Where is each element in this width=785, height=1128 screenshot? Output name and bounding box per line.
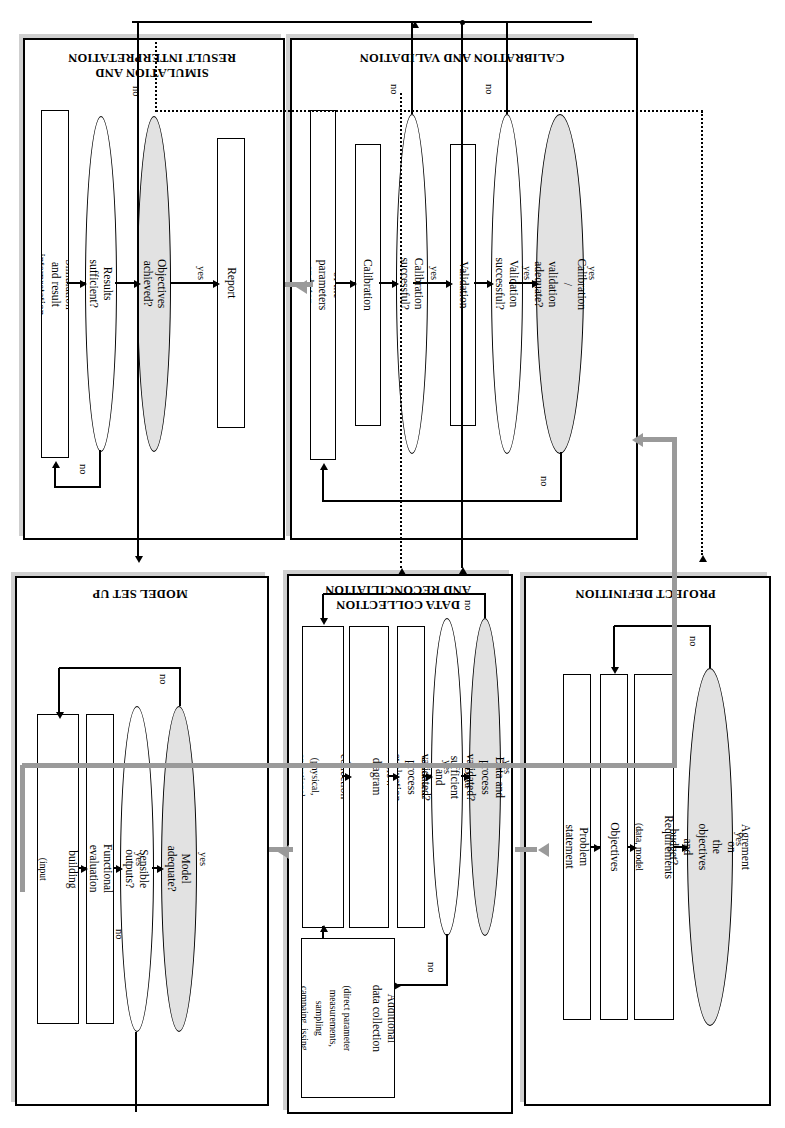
arrow-dsv-to-dpv (464, 774, 471, 782)
edge-calsucc-no-out (411, 22, 413, 114)
arrow-objectives-to-requirements (630, 845, 637, 853)
edge-so-no-out (135, 1032, 137, 1112)
arrow-pfd-to-dpe (393, 774, 400, 782)
edge-dpv-no-h (323, 593, 486, 595)
label-calsucc-no: no (389, 84, 400, 95)
label-dsv-no: no (426, 962, 437, 973)
node-results-sufficient-label: Results sufficient? (87, 260, 116, 308)
node-report-label: Report (224, 267, 238, 298)
feedback-objectives-v2 (701, 111, 703, 555)
panel-model-set-up-title: MODEL SET UP (13, 586, 267, 601)
node-calibration-validation-adequate: Calibration / validation adequate? (536, 114, 584, 454)
label-cal-yes: yes (429, 266, 440, 280)
arrow-res-no (52, 461, 60, 468)
arrow-dpv-no (320, 618, 328, 625)
node-plant-model-building: Plant model building (input specificatio… (37, 714, 79, 1024)
arrow-calval-no (320, 463, 328, 470)
arrow-sel-to-cal (350, 281, 357, 289)
connector-model-to-calibration-h2 (639, 437, 677, 442)
node-objectives-label: Objectives (607, 822, 621, 871)
edge-dsv-no-h2 (398, 984, 448, 986)
node-calibration-label: Calibration (361, 259, 375, 311)
label-res-no: no (78, 464, 89, 475)
node-functional-evaluation: Functional evaluation (86, 714, 114, 1024)
edge-calval-no-v (560, 452, 562, 502)
node-validation-label: Validation (456, 261, 470, 308)
node-model-adequate: Model adequate? (161, 706, 197, 1032)
edge-calval-no-h (322, 500, 562, 502)
node-calibration: Calibration (355, 144, 381, 426)
arrow-fe-to-so (116, 866, 123, 874)
label-calval-yes: yes (587, 266, 598, 280)
arrow-bus-to-additional-data (459, 567, 467, 574)
node-model-adequate-label: Model adequate? (165, 846, 194, 892)
node-additional-data-collection: Additional data collection (direct param… (301, 938, 395, 1098)
edge-ma-no-up (58, 668, 60, 712)
node-objectives-achieved: Objectives achieved? (137, 116, 171, 452)
arrow-problem-to-objectives (594, 845, 601, 853)
label-obj-yes: yes (196, 266, 207, 280)
connector-sensible-no-up (137, 22, 139, 556)
label-agreement-yes: yes (734, 832, 745, 846)
feedback-additional-data-v (400, 93, 402, 568)
label-valsucc-no: no (484, 84, 495, 95)
label-val-yes: yes (522, 266, 533, 280)
edge-ma-no-h (59, 667, 181, 669)
feedback-objectives-v1 (155, 38, 157, 112)
label-ma-yes: yes (198, 852, 209, 866)
arrowhead-model-to-calibration (632, 433, 643, 447)
node-data-collection-sublabel: (physical, operational, influent, efflue… (302, 754, 321, 800)
label-so-yes: yes (134, 852, 145, 866)
arrow-pmb-to-fe (81, 866, 88, 874)
label-dpv-no: no (463, 600, 474, 611)
panel-project-definition: PROJECT DEFINITION Problem statement Obj… (524, 576, 771, 1106)
panel-model-set-up: MODEL SET UP Plant model building (input… (15, 576, 269, 1106)
arrow-adc-to-datacol (320, 925, 328, 932)
connector-model-to-calibration-v1 (20, 765, 25, 892)
edge-agreement-no-v (709, 626, 711, 668)
edge-calval-no-down (322, 468, 324, 502)
label-so-no: no (114, 929, 125, 940)
node-objectives-achieved-label: Objectives achieved? (140, 259, 169, 308)
edge-agreement-no-up (613, 626, 615, 667)
node-agreement-objectives-budget: Agrement on the objectives and budget? (687, 668, 733, 1026)
junction-dot-bus (460, 20, 465, 25)
node-selection-parameters: Selection of the parameters and stop cri… (310, 110, 336, 460)
panel-simulation-and-result-interpretation: SIMULATION AND RESULT INTERPRETATION Sim… (23, 38, 285, 540)
node-simulation-result-interpretation-label: Simulation and result interpretation (41, 253, 69, 315)
edge-dpv-no-up (322, 594, 324, 618)
node-validation-successful: Validation successful? (491, 114, 523, 454)
arrow-sim-to-ressuff (80, 281, 87, 289)
panel-calibration-and-validation: CALIBRATION AND VALIDATION Selection of … (290, 38, 638, 540)
arrow-feedback-additional-data (398, 568, 406, 575)
arrow-dpe-to-dsv (426, 774, 433, 782)
arrowhead-data-to-model (278, 845, 289, 859)
arrow-feedback-objectives (699, 555, 707, 562)
label-ma-no: no (158, 674, 169, 685)
arrow-so-to-ma (157, 866, 164, 874)
node-problem-statement-label: Problem statement (563, 825, 591, 869)
arrow-valsucc-to-calvaladq (532, 281, 539, 289)
edge-objach-to-report (170, 282, 218, 284)
connector-model-to-calibration-h (22, 763, 677, 768)
node-validation: Validation (450, 144, 476, 426)
node-functional-evaluation-label: Functional evaluation (86, 844, 114, 893)
arrow-agreement-no (611, 667, 619, 674)
bus-main-horizontal (132, 21, 592, 23)
label-calval-no: no (539, 476, 550, 487)
bus-to-additional-data-2 (461, 88, 463, 568)
panel-data-collection-title: DATA COLLECTION AND RECONCILIATION (285, 582, 511, 613)
arrow-dsv-no (394, 983, 401, 991)
node-problem-statement: Problem statement (563, 674, 591, 1020)
node-simulation-result-interpretation: Simulation and result interpretation (41, 110, 69, 458)
arrow-objach-to-report (213, 281, 220, 289)
edge-res-no-h (55, 486, 101, 488)
panel-simulation-title: SIMULATION AND RESULT INTERPRETATION (21, 50, 283, 81)
node-objectives: Objectives (600, 674, 628, 1020)
edge-ma-no-v (179, 668, 181, 706)
arrow-datacol-to-pfd (345, 774, 352, 782)
node-sensible-outputs: Sensible outputs? (120, 706, 154, 1032)
node-additional-data-collection-label: Additional data collection (371, 984, 395, 1051)
label-agreement-no: no (688, 636, 699, 647)
edge-valsucc-no-out (506, 22, 508, 114)
